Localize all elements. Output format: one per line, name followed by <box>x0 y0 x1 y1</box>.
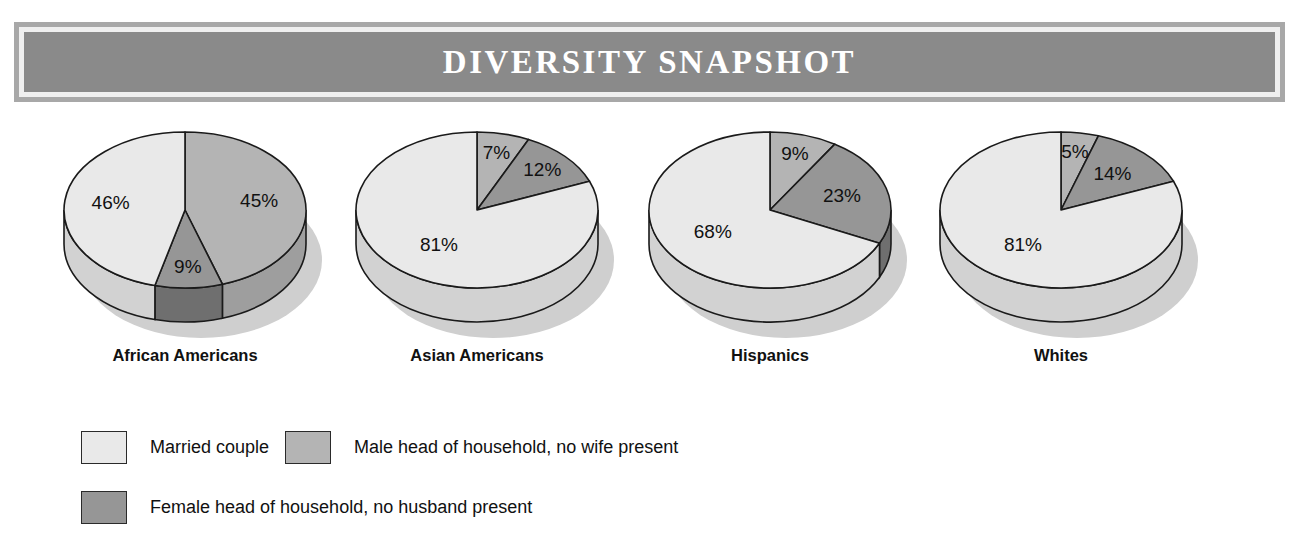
pie-chart-caption: Hispanics <box>620 346 920 365</box>
title-banner: DIVERSITY SNAPSHOT <box>14 22 1285 102</box>
pie-graphic: 7%12%81% <box>327 118 627 383</box>
pie-chart-african-americans: 45%9%46%African Americans <box>35 118 335 383</box>
legend-item-married-couple: Married couple <box>81 431 269 464</box>
legend-swatch-female-head <box>81 491 127 524</box>
slice-value-label: 9% <box>781 143 809 164</box>
title-banner-fill: DIVERSITY SNAPSHOT <box>24 32 1275 92</box>
slice-value-label: 5% <box>1061 141 1089 162</box>
pie-top-faces <box>649 132 891 288</box>
pie-chart-hispanics: 9%23%68%Hispanics <box>620 118 920 383</box>
legend-label-male-head: Male head of household, no wife present <box>354 437 678 458</box>
slice-value-label: 12% <box>523 159 561 180</box>
pie-wall-female_head <box>155 284 222 322</box>
pie-graphic: 45%9%46% <box>35 118 335 383</box>
slice-value-label: 81% <box>420 234 458 255</box>
pie-chart-caption: Whites <box>911 346 1211 365</box>
pie-top-faces <box>356 132 598 288</box>
legend-item-female-head: Female head of household, no husband pre… <box>81 491 532 524</box>
legend-swatch-male-head <box>285 431 331 464</box>
pie-graphic: 5%14%81% <box>911 118 1211 383</box>
legend-item-male-head: Male head of household, no wife present <box>285 431 678 464</box>
pie-chart-caption: Asian Americans <box>327 346 627 365</box>
legend-label-female-head: Female head of household, no husband pre… <box>150 497 532 518</box>
legend-swatch-married-couple <box>81 431 127 464</box>
slice-value-label: 45% <box>240 190 278 211</box>
page-title: DIVERSITY SNAPSHOT <box>443 46 856 79</box>
title-banner-inner-border: DIVERSITY SNAPSHOT <box>19 27 1280 97</box>
pie-chart-caption: African Americans <box>35 346 335 365</box>
slice-value-label: 46% <box>92 192 130 213</box>
slice-value-label: 7% <box>483 142 511 163</box>
pie-graphic: 9%23%68% <box>620 118 920 383</box>
slice-value-label: 68% <box>694 221 732 242</box>
slice-value-label: 14% <box>1093 163 1131 184</box>
pie-chart-asian-americans: 7%12%81%Asian Americans <box>327 118 627 383</box>
pie-chart-whites: 5%14%81%Whites <box>911 118 1211 383</box>
slice-value-label: 9% <box>174 256 202 277</box>
legend-label-married-couple: Married couple <box>150 437 269 458</box>
pie-chart-row: 45%9%46%African Americans7%12%81%Asian A… <box>0 118 1311 383</box>
slice-value-label: 23% <box>823 185 861 206</box>
slice-value-label: 81% <box>1004 234 1042 255</box>
chart-legend: Married couple Male head of household, n… <box>0 415 1311 545</box>
